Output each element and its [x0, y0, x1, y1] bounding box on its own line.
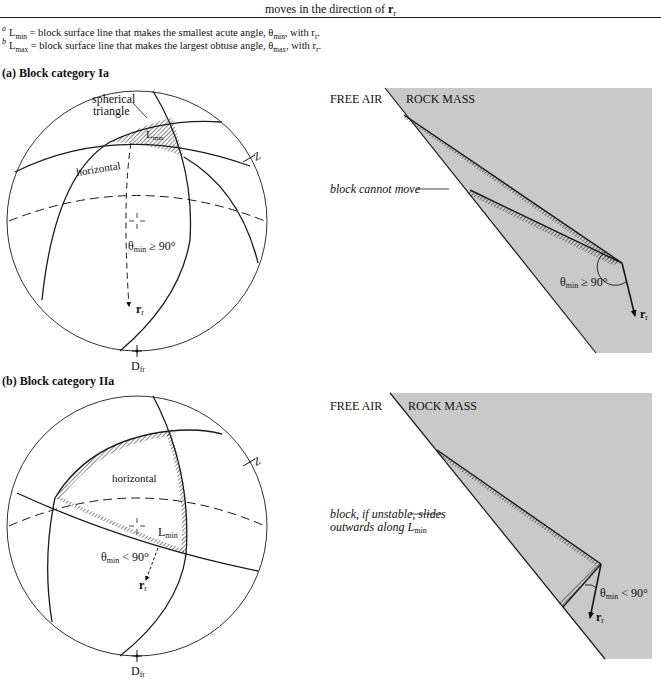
section-b [390, 393, 652, 659]
stereonet-b [7, 396, 267, 662]
label-theta-a: θmin ≥ 90° [128, 239, 176, 254]
label-block-cannot-move: block cannot move [330, 182, 421, 196]
primitive-circle [7, 396, 267, 656]
great-circle-4 [184, 157, 258, 263]
label-free-air-b: FREE AIR [330, 399, 382, 413]
dfr-dot [135, 654, 138, 657]
label-free-air-a: FREE AIR [330, 92, 382, 106]
label-lmin-b: Lmin [158, 525, 178, 540]
label-callout-line1: block, if unstable, slides [330, 507, 446, 521]
great-circle-1 [15, 144, 250, 172]
label-rock-mass-b: ROCK MASS [408, 399, 477, 413]
label-horizontal-b: horizontal [112, 472, 157, 484]
label-horizontal-a: horizontal [75, 159, 121, 178]
label-rock-mass-a: ROCK MASS [406, 92, 475, 106]
rock-mass-fill [390, 393, 652, 659]
hatch-upper-arc [55, 431, 172, 500]
label-triangle: triangle [93, 104, 130, 118]
section-a [385, 88, 652, 353]
figure-canvas: spherical triangle Lmin horizontal Z θmi… [0, 0, 661, 686]
hatch-lower-line [55, 496, 186, 555]
label-dfr-a: Dfr [131, 359, 145, 374]
label-z-b: Z [251, 454, 263, 468]
dfr-dot [135, 349, 138, 352]
label-rr-a: rr [136, 302, 144, 317]
label-rr-b: rr [139, 578, 147, 593]
label-theta-b: θmin < 90° [101, 550, 149, 565]
rock-mass-fill [385, 88, 652, 353]
label-z-a: Z [251, 149, 263, 163]
stereonet-a [7, 91, 267, 357]
label-dfr-b: Dfr [131, 664, 145, 679]
great-circle-upper-lower [48, 498, 55, 622]
label-callout-line2: outwards along Lmin [330, 520, 427, 535]
center-cross [129, 213, 145, 229]
rr-dashed-path [126, 143, 131, 306]
